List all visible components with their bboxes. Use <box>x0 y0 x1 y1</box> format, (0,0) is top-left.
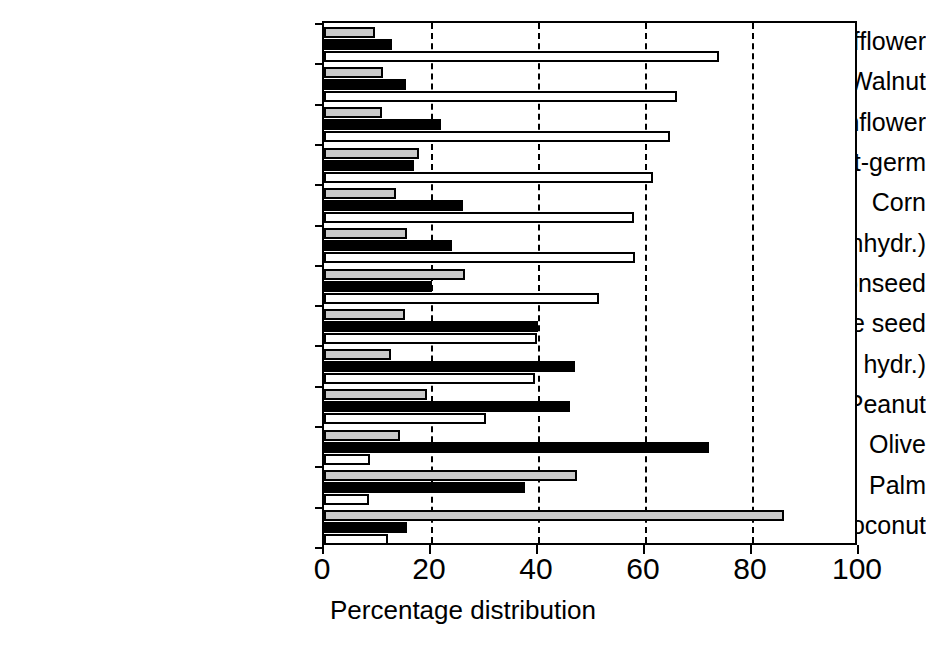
x-axis-tick-label-40: 40 <box>519 552 552 586</box>
bar-cottonseed-monounsaturated <box>324 281 432 292</box>
bar-sesame-seed-saturated <box>324 309 405 320</box>
bar-coconut-monounsaturated <box>324 522 407 533</box>
bar-sesame-seed-monounsaturated <box>324 321 538 332</box>
y-axis-tick-11 <box>315 466 324 468</box>
bar-walnut-polyunsaturated <box>324 91 677 102</box>
y-axis-tick-9 <box>315 386 324 388</box>
x-axis-title: Percentage distribution <box>0 595 926 625</box>
bar-olive-saturated <box>324 430 400 441</box>
bar-cottonseed-polyunsaturated <box>324 293 599 304</box>
gridline-80 <box>752 23 754 543</box>
y-axis-tick-1 <box>315 63 324 65</box>
bar-coconut-saturated <box>324 510 784 521</box>
x-axis-tick-label-0: 0 <box>314 552 331 586</box>
bar-peanut-monounsaturated <box>324 401 570 412</box>
bar-sunflower-saturated <box>324 107 382 118</box>
bar-walnut-saturated <box>324 67 383 78</box>
bar-olive-monounsaturated <box>324 442 709 453</box>
bar-olive-polyunsaturated <box>324 454 370 465</box>
x-axis-tick-label-100: 100 <box>832 552 882 586</box>
bar-safflower-polyunsaturated <box>324 51 719 62</box>
bar-safflower-monounsaturated <box>324 39 392 50</box>
y-axis-tick-10 <box>315 426 324 428</box>
bar-soybean-unhydr-saturated <box>324 228 407 239</box>
y-axis-tick-4 <box>315 184 324 186</box>
x-axis-tick-label-20: 20 <box>412 552 445 586</box>
y-axis-tick-12 <box>315 507 324 509</box>
bar-cottonseed-saturated <box>324 269 465 280</box>
y-axis-tick-0 <box>315 23 324 25</box>
bar-wheat-germ-saturated <box>324 148 419 159</box>
plot-area <box>322 21 857 545</box>
bar-wheat-germ-monounsaturated <box>324 160 414 171</box>
bar-sunflower-monounsaturated <box>324 119 441 130</box>
bar-corn-polyunsaturated <box>324 212 634 223</box>
y-axis-tick-7 <box>315 305 324 307</box>
bar-soybean-unhydr-polyunsaturated <box>324 252 635 263</box>
bar-corn-monounsaturated <box>324 200 463 211</box>
y-axis-tick-8 <box>315 345 324 347</box>
bar-sunflower-polyunsaturated <box>324 131 670 142</box>
bar-palm-polyunsaturated <box>324 494 369 505</box>
bar-peanut-saturated <box>324 389 427 400</box>
bar-coconut-polyunsaturated <box>324 534 388 545</box>
bar-soybean-part-hydr-monounsaturated <box>324 361 575 372</box>
x-axis-tick-label-60: 60 <box>626 552 659 586</box>
bar-corn-saturated <box>324 188 396 199</box>
bar-soybean-part-hydr-polyunsaturated <box>324 373 535 384</box>
bar-sesame-seed-polyunsaturated <box>324 333 537 344</box>
y-axis-tick-2 <box>315 104 324 106</box>
bar-soybean-part-hydr-saturated <box>324 349 391 360</box>
bar-palm-saturated <box>324 470 577 481</box>
bar-walnut-monounsaturated <box>324 79 406 90</box>
bar-wheat-germ-polyunsaturated <box>324 172 653 183</box>
bar-peanut-polyunsaturated <box>324 413 486 424</box>
y-axis-tick-6 <box>315 265 324 267</box>
bar-soybean-unhydr-monounsaturated <box>324 240 452 251</box>
y-axis-tick-5 <box>315 225 324 227</box>
y-axis-tick-3 <box>315 144 324 146</box>
bar-chart: SafflowerWalnutSunflowerWheat-germCornSo… <box>0 0 926 651</box>
bar-palm-monounsaturated <box>324 482 525 493</box>
bar-safflower-saturated <box>324 27 375 38</box>
x-axis-tick-label-80: 80 <box>733 552 766 586</box>
